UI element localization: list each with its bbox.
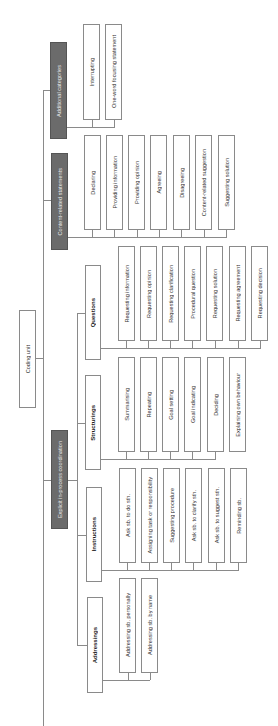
leaf: Summarising — [118, 357, 135, 452]
bus-content — [68, 237, 227, 238]
leaf: Explaining own behaviour — [229, 357, 246, 452]
category-label: Structurings — [90, 405, 96, 441]
leaf: Providing information — [106, 135, 123, 230]
leaf: Suggesting procedure — [163, 468, 180, 563]
group-additional-categories: Additional categories — [50, 42, 67, 139]
category-instructions: Instructions — [86, 487, 102, 582]
leaf: Content-related suggestion — [195, 135, 212, 230]
group-label: Additional categories — [56, 65, 62, 117]
connector-content — [43, 200, 51, 201]
leaf: Reminding sb. — [230, 468, 247, 563]
leaf: Interrupting — [83, 24, 100, 120]
leaf: Declaring — [84, 135, 101, 230]
tick — [114, 120, 115, 127]
group-label: Explicit in-process coordination — [57, 441, 63, 518]
group-label: Content-related statements — [57, 168, 63, 235]
leaf: Deciding — [207, 357, 224, 452]
tick — [92, 120, 93, 127]
root-connector — [36, 358, 43, 359]
bus-additional — [67, 127, 115, 128]
explicit-spine — [68, 480, 77, 481]
category-label: Questions — [90, 298, 96, 327]
leaf: Requesting opinion — [140, 246, 157, 341]
leaf: Requesting decision — [251, 246, 268, 341]
leaf: Ask sb. to suggest sth. — [208, 468, 225, 563]
leaf: Requesting information — [118, 246, 135, 341]
leaf: Suggesting solution — [218, 135, 235, 230]
category-questions: Questions — [85, 265, 101, 360]
level2-spine — [77, 313, 78, 646]
leaf: Repeating — [140, 357, 157, 452]
leaf: Providing opinion — [128, 135, 145, 230]
leaf: Ask sb. to clarify sth. — [185, 468, 202, 563]
leaf: Ask sb. to do sth. — [119, 468, 136, 563]
leaf: Addressing sb. personally — [119, 578, 136, 673]
leaf: Goal indicating — [184, 357, 201, 452]
leaf: Agreeing — [150, 135, 167, 230]
leaf: Requesting clarification — [162, 246, 179, 341]
leaf: Addressing sb. by name — [141, 578, 158, 673]
root-label: Coding unit — [25, 345, 31, 373]
category-addressings: Addressings — [87, 597, 103, 693]
leaf: Goal setting — [162, 357, 179, 452]
category-label: Addressings — [92, 627, 98, 663]
trunk-line — [43, 90, 44, 726]
group-explicit-coordination: Explicit in-process coordination — [51, 430, 68, 529]
leaf: One-word focusing statement — [105, 24, 122, 120]
connector-explicit — [43, 480, 51, 481]
group-content-related-statements: Content-related statements — [51, 153, 68, 250]
leaf: Requesting solution — [206, 246, 223, 341]
leaf: Assigning task or responsibility — [141, 468, 158, 563]
category-structurings: Structurings — [85, 375, 101, 470]
root-node: Coding unit — [19, 310, 36, 408]
leaf: Disagreeing — [173, 135, 190, 230]
leaf: Procedural question — [184, 246, 201, 341]
leaf: Requesting agreement — [229, 246, 246, 341]
category-label: Instructions — [91, 517, 97, 551]
